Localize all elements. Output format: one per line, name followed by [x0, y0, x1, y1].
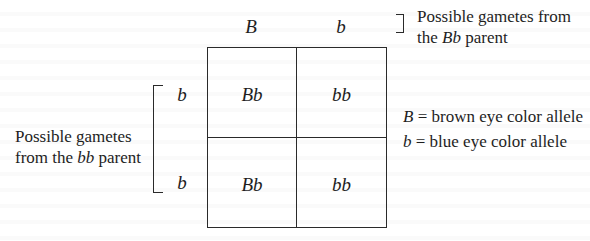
legend-meaning: brown eye color allele — [431, 107, 583, 126]
legend-meaning: blue eye color allele — [430, 132, 567, 151]
column-parent-caption-line2: the Bb parent — [417, 27, 590, 48]
row-parent-caption: Possible gametes from the bb parent — [15, 126, 155, 168]
row-parent-caption-line2: from the bb parent — [15, 147, 155, 168]
column-parent-genotype: Bb — [442, 28, 461, 47]
row-parent-genotype: bb — [77, 148, 94, 167]
punnett-cell-r1c1: Bb — [208, 48, 297, 138]
offspring-genotype: bb — [297, 84, 386, 106]
legend-item-brown: B = brown eye color allele — [403, 104, 590, 129]
offspring-genotype: bb — [297, 174, 386, 196]
column-gamete-2: b — [296, 16, 386, 38]
offspring-genotype: Bb — [208, 84, 296, 106]
punnett-square-grid: Bb bb Bb bb — [207, 47, 387, 228]
row-gamete-2: b — [172, 172, 192, 194]
column-gamete-1: B — [206, 16, 296, 38]
punnett-cell-r2c1: Bb — [208, 138, 297, 228]
row-parent-caption-line1: Possible gametes — [15, 126, 155, 147]
column-parent-caption-line1: Possible gametes from — [417, 6, 590, 27]
top-bracket — [396, 14, 404, 33]
legend-item-blue: b = blue eye color allele — [403, 129, 590, 154]
row-gamete-1: b — [172, 84, 192, 106]
column-parent-caption: Possible gametes from the Bb parent — [417, 6, 590, 48]
offspring-genotype: Bb — [208, 174, 296, 196]
punnett-cell-r1c2: bb — [297, 48, 386, 138]
punnett-cell-r2c2: bb — [297, 138, 386, 228]
allele-legend: B = brown eye color allele b = blue eye … — [403, 104, 590, 154]
legend-symbol: B — [403, 107, 413, 126]
legend-symbol: b — [403, 132, 412, 151]
left-bracket — [153, 85, 163, 193]
